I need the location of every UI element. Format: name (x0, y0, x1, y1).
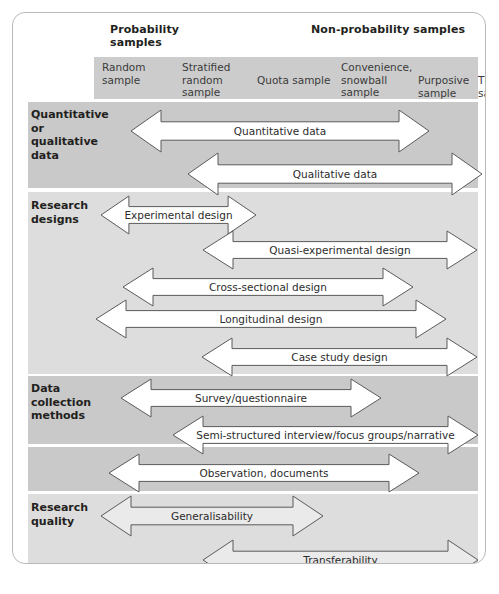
column-header-quota-sample: Quota sample (257, 74, 339, 87)
column-header-stratified-sample: Stratified random sample (182, 61, 260, 99)
column-header-purposive-sample: Purposive sample (418, 74, 480, 99)
arrow-survey-questionnaire: Survey/questionnaire (121, 379, 381, 417)
column-header-random-sample: Random sample (102, 61, 182, 86)
arrow-shape-transferability (203, 540, 478, 564)
arrow-shape-survey-questionnaire (121, 379, 381, 417)
section-label-research-quality: Research quality (31, 501, 88, 528)
arrow-quasi-experimental-design: Quasi-experimental design (203, 231, 477, 269)
section-label-research-designs: Research designs (31, 199, 88, 226)
arrow-shape-longitudinal-design (96, 300, 446, 338)
arrow-shape-quantitative-data (131, 110, 429, 152)
arrow-shape-semi-structured-interview (173, 416, 478, 454)
arrow-experimental-design: Experimental design (101, 196, 256, 234)
group-heading-probability: Probability samples (110, 23, 179, 49)
arrow-shape-generalisability (101, 496, 323, 536)
diagram-figure: Probability samples Non-probability samp… (12, 12, 486, 564)
arrow-case-study-design: Case study design (202, 338, 477, 376)
arrow-transferability: Transferability (203, 540, 478, 564)
arrow-semi-structured-interview: Semi-structured interview/focus groups/n… (173, 416, 478, 454)
column-header-theoretical-sample: Theoretical sample (478, 74, 486, 99)
arrow-shape-qualitative-data (188, 153, 482, 195)
arrow-generalisability: Generalisability (101, 496, 323, 536)
column-header-convenience-sample: Convenience, snowball sample (341, 61, 417, 99)
arrow-shape-quasi-experimental-design (203, 231, 477, 269)
arrow-longitudinal-design: Longitudinal design (96, 300, 446, 338)
arrow-qualitative-data: Qualitative data (188, 153, 482, 195)
group-heading-non-probability: Non-probability samples (311, 23, 465, 36)
arrow-shape-observation-documents (109, 454, 419, 492)
column-header-strip: Random sample Stratified random sample Q… (94, 57, 478, 99)
arrow-shape-case-study-design (202, 338, 477, 376)
section-label-data-type: Quantitative or qualitative data (31, 108, 109, 162)
section-label-data-collection: Data collection methods (31, 382, 91, 423)
arrow-observation-documents: Observation, documents (109, 454, 419, 492)
arrow-shape-experimental-design (101, 196, 256, 234)
arrow-quantitative-data: Quantitative data (131, 110, 429, 152)
